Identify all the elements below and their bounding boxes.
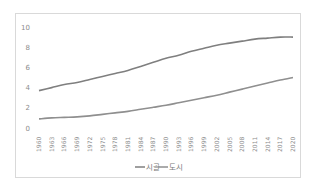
x-tick-label: 1960: [35, 137, 42, 152]
y-tick-label: 0: [26, 125, 30, 133]
x-tick-label: 2005: [226, 137, 233, 152]
x-tick-label: 1999: [200, 137, 207, 152]
y-tick-label: 8: [26, 44, 30, 52]
y-tick-label: 2: [26, 104, 30, 112]
legend-label-series-1: 시골: [146, 163, 160, 172]
legend: 시골 도시: [135, 163, 183, 172]
y-tick-label: 4: [26, 84, 31, 92]
x-tick-label: 2020: [289, 137, 296, 152]
x-tick-label: 1987: [149, 137, 156, 152]
x-tick-label: 2008: [238, 137, 245, 152]
x-tick-label: 2017: [276, 137, 283, 152]
x-tick-label: 1978: [111, 137, 118, 152]
series-lines: [39, 37, 293, 119]
x-tick-label: 1981: [124, 137, 131, 152]
x-tick-label: 1966: [60, 137, 67, 152]
y-axis: 0246810: [21, 24, 30, 133]
x-tick-label: 1990: [162, 137, 169, 152]
x-tick-label: 1972: [86, 137, 93, 152]
x-tick-label: 1996: [187, 137, 194, 152]
x-tick-label: 1984: [137, 137, 144, 152]
y-tick-label: 6: [26, 64, 31, 72]
line-chart: 0246810 19601963196619691972197519781981…: [0, 0, 319, 193]
x-tick-label: 1969: [73, 137, 80, 152]
x-tick-label: 1993: [175, 137, 182, 152]
x-tick-label: 2014: [264, 137, 271, 152]
x-axis: 1960196319661969197219751978198119841987…: [35, 137, 296, 152]
y-tick-label: 10: [21, 24, 30, 32]
x-tick-label: 1963: [48, 137, 55, 152]
x-tick-label: 2002: [213, 137, 220, 152]
series-line-1: [39, 37, 293, 91]
series-line-2: [39, 78, 293, 119]
x-tick-label: 2011: [251, 137, 258, 152]
x-tick-label: 1975: [99, 137, 106, 152]
legend-label-series-2: 도시: [169, 163, 183, 172]
